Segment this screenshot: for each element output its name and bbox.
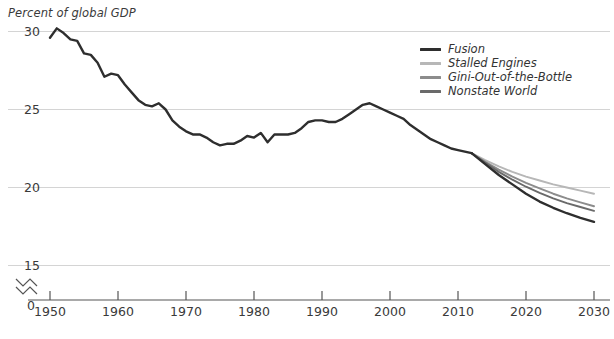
legend-swatch-icon — [420, 76, 441, 79]
chart-container: Percent of global GDP 30252015 195019601… — [0, 0, 614, 339]
y-axis-zero-label: 0 — [27, 298, 35, 313]
x-axis-tick-label: 2010 — [442, 304, 474, 319]
x-axis-tick-label: 2000 — [374, 304, 406, 319]
x-axis-tick-label: 1970 — [170, 304, 202, 319]
legend-item[interactable]: Fusion — [420, 42, 572, 56]
x-axis-tick-label: 1960 — [102, 304, 134, 319]
x-axis-tick-label: 2030 — [578, 304, 610, 319]
legend-item-label: Fusion — [448, 42, 485, 56]
x-axis-tick-label: 2020 — [510, 304, 542, 319]
legend-swatch-icon — [420, 90, 441, 93]
series-line-historical — [50, 28, 472, 153]
x-axis — [28, 291, 610, 300]
y-axis-tick-label: 15 — [24, 258, 40, 273]
x-axis-tick-label: 1990 — [306, 304, 338, 319]
legend-item[interactable]: Gini-Out-of-the-Bottle — [420, 70, 572, 84]
legend-item[interactable]: Stalled Engines — [420, 56, 572, 70]
legend-item[interactable]: Nonstate World — [420, 84, 572, 98]
legend-item-label: Stalled Engines — [448, 56, 537, 70]
y-axis-tick-label: 30 — [24, 24, 40, 39]
legend-swatch-icon — [420, 48, 441, 51]
y-axis-tick-label: 20 — [24, 180, 40, 195]
axis-break-icon — [16, 279, 37, 294]
legend-item-label: Gini-Out-of-the-Bottle — [448, 70, 572, 84]
y-axis-tick-label: 25 — [24, 102, 40, 117]
x-axis-tick-label: 1980 — [238, 304, 270, 319]
legend-swatch-icon — [420, 62, 441, 65]
x-axis-tick-label: 1950 — [34, 304, 66, 319]
chart-legend: FusionStalled EnginesGini-Out-of-the-Bot… — [420, 42, 572, 98]
legend-item-label: Nonstate World — [448, 84, 537, 98]
